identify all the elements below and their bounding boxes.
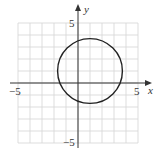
axes <box>10 4 152 148</box>
x-max-tick-label: 5 <box>134 85 140 97</box>
circle-plot: x y −5 5 5 −5 <box>0 0 156 151</box>
y-axis-arrow-icon <box>75 4 81 11</box>
x-axis-label: x <box>147 84 153 96</box>
y-min-tick-label: −5 <box>63 136 75 148</box>
y-axis-label: y <box>83 3 89 15</box>
y-max-tick-label: 5 <box>69 17 75 29</box>
x-min-tick-label: −5 <box>9 85 21 97</box>
